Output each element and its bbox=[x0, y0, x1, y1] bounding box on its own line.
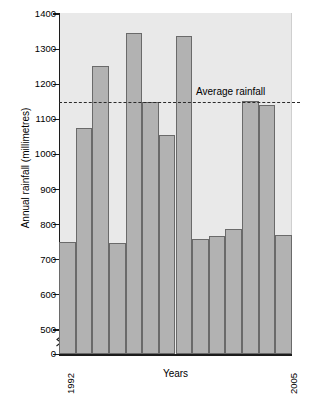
bar-2002 bbox=[225, 229, 242, 355]
average-rainfall-label: Average rainfall bbox=[196, 86, 265, 97]
x-axis-title: Years bbox=[59, 368, 292, 379]
average-rainfall-line bbox=[59, 102, 300, 103]
bar-1992 bbox=[59, 242, 76, 355]
bar-2003 bbox=[242, 101, 259, 354]
bar-1999 bbox=[176, 36, 193, 354]
bar-1996 bbox=[126, 33, 143, 354]
y-tick-label-600: 600 bbox=[16, 290, 56, 300]
y-tick-label-1400: 1400 bbox=[16, 9, 56, 19]
y-tick-label-800: 800 bbox=[16, 220, 56, 230]
x-axis-line bbox=[59, 354, 292, 355]
bar-1994 bbox=[92, 66, 109, 354]
y-axis-title: Annual rainfall (millimetres) bbox=[20, 78, 36, 258]
y-tick-label-1100: 1100 bbox=[16, 114, 56, 124]
bar-1997 bbox=[142, 102, 159, 355]
y-tick-label-0: 0 bbox=[16, 349, 56, 359]
bar-2001 bbox=[209, 236, 226, 354]
y-tick-label-1300: 1300 bbox=[16, 44, 56, 54]
bar-2000 bbox=[192, 239, 209, 355]
y-tick-label-1000: 1000 bbox=[16, 149, 56, 159]
bar-2004 bbox=[259, 105, 276, 354]
bar-2005 bbox=[275, 235, 292, 355]
y-tick-label-500: 500 bbox=[16, 325, 56, 335]
y-tick-label-700: 700 bbox=[16, 255, 56, 265]
y-tick-label-1200: 1200 bbox=[16, 79, 56, 89]
bar-1993 bbox=[76, 128, 93, 355]
y-tick-label-900: 900 bbox=[16, 185, 56, 195]
bar-1998 bbox=[159, 135, 176, 354]
bar-1995 bbox=[109, 243, 126, 354]
rainfall-bar-chart: Annual rainfall (millimetres) 0500600700… bbox=[0, 0, 309, 397]
